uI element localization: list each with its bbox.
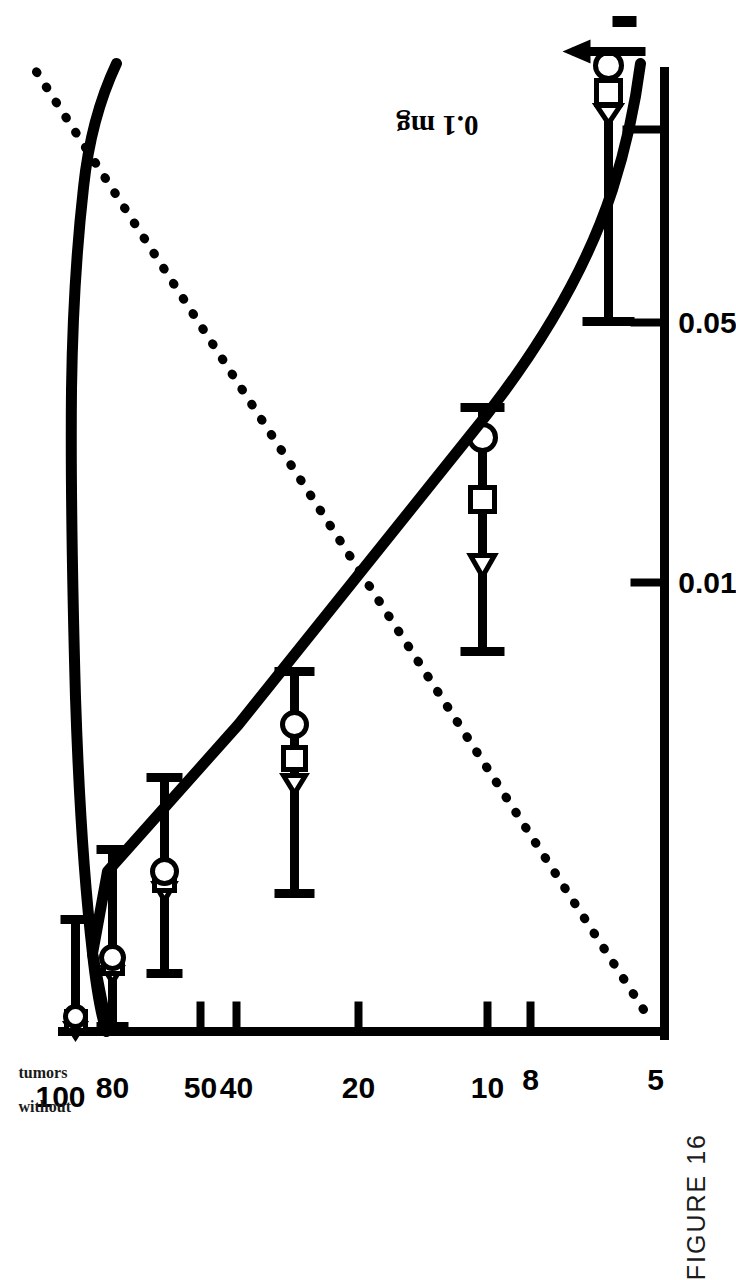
circle-marker-3 [152,859,176,883]
y-axis-ticks [75,1001,530,1031]
circle-marker-1 [65,1006,85,1026]
data-point-group-4 [274,671,314,893]
y-tick-label-20: 20 [341,1071,374,1105]
y-axis-title-line1: without [18,1095,70,1117]
y-axis-title-line2: tumors [18,1061,67,1083]
triangle-marker-6 [596,105,620,123]
y-tick-label-8: 8 [522,1062,539,1096]
x-tick-label-0-05: 0.05 [678,305,736,339]
square-marker-5 [470,487,494,511]
circle-marker-4 [282,712,306,736]
y-tick-label-50: 50 [183,1071,216,1105]
reference-dotted-line [28,59,643,1009]
y-tick-label-80: 80 [95,1071,128,1105]
square-marker-6 [596,80,620,104]
circle-marker-2 [101,946,123,968]
x-tick-label-0-01: 0.01 [678,565,736,599]
triangle-marker-5 [470,555,494,576]
triangle-marker-4 [283,775,305,793]
y-tick-label-10: 10 [470,1071,503,1105]
dose-unit-label: 0.1 mg [396,108,478,141]
square-marker-4 [283,747,305,769]
y-tick-label-40: 40 [219,1071,252,1105]
figure-caption: FIGURE 16 [682,1133,711,1280]
arrow-head [562,39,590,63]
y-tick-label-5: 5 [647,1062,664,1096]
x-axis-ticks [622,129,664,582]
